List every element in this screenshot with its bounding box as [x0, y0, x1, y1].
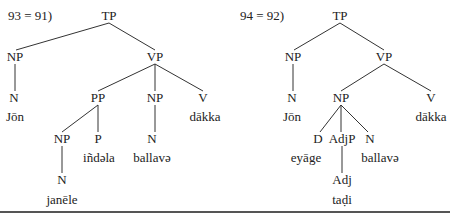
tree-branch	[98, 64, 155, 91]
word-tadi: taḍi	[332, 193, 352, 207]
node-pp: PP	[91, 91, 105, 105]
tree-branch	[341, 105, 368, 132]
example-number-label: 94 = 92)	[240, 9, 284, 23]
word-jon: Jōn	[6, 110, 24, 124]
tree-branches	[0, 0, 450, 222]
node-np-subject: NP	[7, 50, 24, 64]
word-janele: janēle	[46, 193, 77, 207]
example-number-label: 93 = 91)	[8, 9, 52, 23]
word-jon: Jōn	[283, 110, 301, 124]
tree-branch	[294, 23, 340, 50]
node-v: V	[198, 91, 207, 105]
word-ballave: ballavə	[133, 151, 171, 165]
node-np-object: NP	[147, 91, 164, 105]
node-n-pp: N	[57, 173, 66, 187]
tree-branch	[109, 23, 155, 50]
tree-branch	[62, 105, 98, 132]
node-np-pp-complement: NP	[54, 132, 71, 146]
bottom-rule-divider	[0, 211, 450, 213]
node-n-subject: N	[287, 91, 296, 105]
node-adjp: AdjP	[329, 132, 356, 146]
tree-branch	[340, 23, 384, 50]
node-n-subject: N	[9, 91, 18, 105]
node-vp: VP	[147, 50, 164, 64]
syntax-tree-figure: 93 = 91) TP NP VP N Jōn PP NP V dākka NP…	[0, 0, 450, 222]
word-indela: iñdəla	[83, 151, 115, 165]
tree-branch	[341, 64, 384, 91]
node-vp: VP	[376, 50, 393, 64]
node-tp: TP	[101, 9, 116, 23]
node-v: V	[426, 91, 435, 105]
tree-branch	[320, 105, 341, 132]
word-ballave: ballavə	[361, 151, 399, 165]
word-dakka: dākka	[415, 110, 446, 124]
word-dakka: dākka	[189, 110, 220, 124]
tree-branch	[384, 64, 431, 91]
node-tp: TP	[332, 9, 347, 23]
node-np-object: NP	[333, 91, 350, 105]
node-p: P	[94, 132, 101, 146]
word-eyage: eyāge	[291, 151, 321, 165]
node-d: D	[313, 132, 322, 146]
node-adj: Adj	[332, 173, 352, 187]
node-n-object: N	[147, 132, 156, 146]
tree-branch	[155, 64, 203, 91]
node-n-object: N	[365, 132, 374, 146]
node-np-subject: NP	[285, 50, 302, 64]
tree-branch	[16, 23, 109, 50]
